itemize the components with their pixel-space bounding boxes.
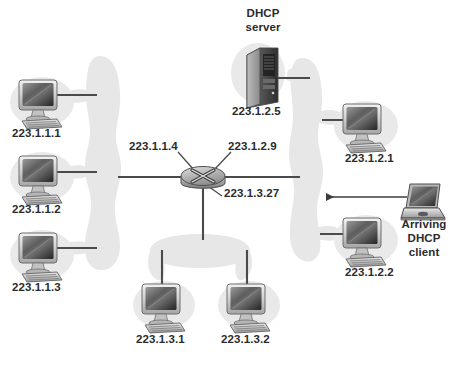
router-interface-label-223-1-2-9: 223.1.2.9 (228, 140, 277, 153)
desktop-computer-icon (19, 156, 62, 205)
host-label-223-1-3-1: 223.1.3.1 (136, 333, 185, 346)
diagram-graphics-layer (0, 0, 458, 368)
laptop-icon (401, 184, 445, 220)
host-label-223-1-1-1: 223.1.1.1 (12, 127, 61, 140)
dhcp-server-title-line1: DHCP (237, 7, 289, 21)
desktop-computer-icon (227, 284, 270, 333)
desktop-computer-icon (142, 284, 185, 333)
dhcp-server-title-line2: server (237, 21, 289, 35)
host-label-223-1-2-1: 223.1.2.1 (345, 152, 394, 165)
host-label-223-1-1-3: 223.1.1.3 (12, 281, 61, 294)
arriving-client-label-line1: Arriving (393, 218, 455, 232)
host-label-223-1-2-2: 223.1.2.2 (345, 266, 394, 279)
subnet-223-1-3-blob (150, 234, 250, 268)
host-label-223-1-1-2: 223.1.1.2 (12, 203, 61, 216)
network-diagram-canvas: 223.1.1.1 223.1.1.2 223.1.1.3 223.1.2.1 … (0, 0, 458, 368)
dhcp-server-address-label: 223.1.2.5 (232, 105, 281, 118)
router-interface-label-223-1-1-4: 223.1.1.4 (129, 140, 178, 153)
arriving-client-label-line3: client (393, 246, 455, 260)
desktop-computer-icon (19, 80, 62, 129)
subnet-223-1-3-nub-right (235, 252, 252, 280)
desktop-computer-icon (19, 233, 62, 282)
host-label-223-1-3-2: 223.1.3.2 (221, 333, 270, 346)
router-interface-label-223-1-3-27: 223.1.3.27 (224, 187, 279, 200)
leader-223-1-1-4 (178, 152, 194, 170)
leader-223-1-2-9 (214, 152, 231, 170)
subnet-223-1-1-blob (85, 56, 121, 270)
arriving-client-label-line2: DHCP (393, 232, 455, 246)
center-router-icon (181, 167, 225, 189)
desktop-computer-icon (343, 104, 386, 153)
desktop-computer-icon (343, 218, 386, 267)
server-tower-icon (247, 48, 278, 108)
